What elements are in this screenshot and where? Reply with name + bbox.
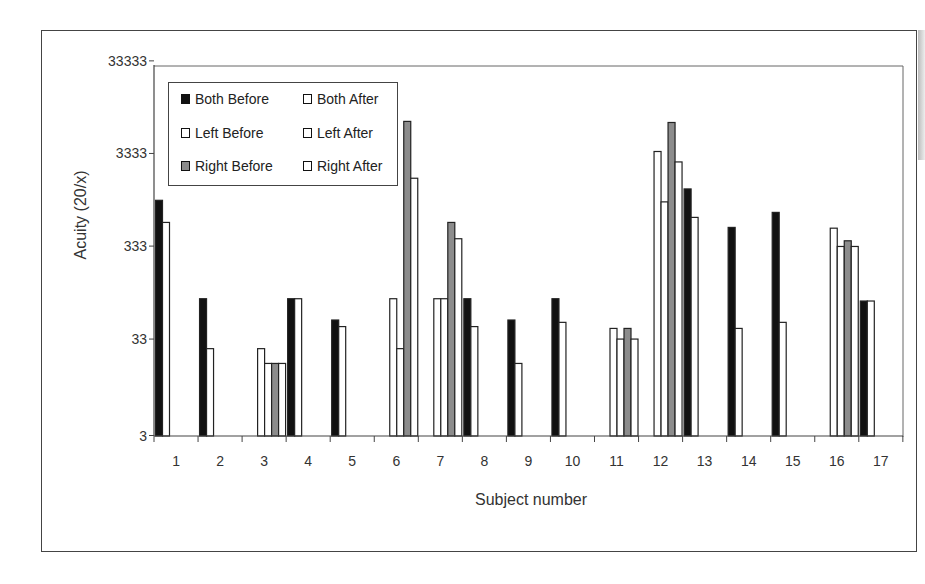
legend-item: Left After [303, 125, 373, 141]
bar-right-before [844, 241, 851, 436]
bar-both-after [559, 322, 566, 436]
x-tick-label: 15 [785, 453, 801, 469]
bar-right-after [411, 178, 418, 436]
legend-label: Right After [317, 158, 382, 174]
bar-both-before [772, 212, 779, 436]
bar-both-before [684, 189, 691, 436]
x-tick-label: 16 [829, 453, 845, 469]
legend-label: Left After [317, 125, 373, 141]
x-tick-label: 1 [172, 453, 180, 469]
bar-right-before [624, 328, 631, 436]
legend-swatch-icon [303, 128, 312, 138]
legend-item: Left Before [181, 125, 264, 141]
bar-both-before [288, 299, 295, 436]
bar-right-before [668, 122, 675, 436]
bar-left-before [258, 349, 265, 436]
bar-both-after [471, 327, 478, 436]
legend-label: Right Before [195, 158, 273, 174]
x-tick-label: 4 [304, 453, 312, 469]
bar-both-before [508, 320, 515, 436]
y-tick-label: 33333 [108, 53, 147, 69]
x-tick-label: 9 [525, 453, 533, 469]
bar-right-before [404, 121, 411, 436]
legend-label: Both After [317, 91, 378, 107]
bar-both-before [464, 299, 471, 436]
bar-both-before [728, 227, 735, 436]
bar-left-after [661, 202, 668, 436]
bar-left-after [441, 299, 448, 436]
x-ticks: 1234567891011121314151617 [154, 436, 903, 469]
legend-item: Both Before [181, 91, 269, 107]
x-tick-label: 17 [873, 453, 889, 469]
bar-left-after [265, 363, 272, 436]
bar-left-before [390, 299, 397, 436]
legend-item: Right Before [181, 158, 273, 174]
x-tick-label: 11 [609, 453, 624, 469]
y-tick-label: 333 [124, 238, 148, 254]
bar-left-before [610, 328, 617, 436]
x-axis-title: Subject number [475, 491, 588, 508]
legend-swatch-icon [303, 94, 312, 104]
bar-both-before [200, 299, 207, 436]
legend-item: Both After [303, 91, 378, 107]
bar-both-before [332, 320, 339, 436]
bar-left-before [434, 299, 441, 436]
bar-both-after [295, 299, 302, 436]
bar-both-before [860, 301, 867, 436]
bar-right-after [851, 246, 858, 436]
bar-chart: 333333333333333 123456789101112131415161… [0, 0, 925, 584]
bar-both-after [691, 217, 698, 436]
legend-label: Both Before [195, 91, 269, 107]
legend-swatch-icon [181, 94, 190, 104]
legend-label: Left Before [195, 125, 264, 141]
x-tick-label: 12 [653, 453, 669, 469]
legend-item: Right After [303, 158, 382, 174]
x-tick-label: 7 [436, 453, 444, 469]
x-tick-label: 3 [260, 453, 268, 469]
legend-swatch-icon [303, 161, 312, 171]
x-tick-label: 5 [348, 453, 356, 469]
bar-both-after [867, 301, 874, 436]
y-tick-label: 3 [139, 428, 147, 444]
bar-left-after [617, 339, 624, 436]
bar-both-after [207, 349, 214, 436]
x-tick-label: 2 [216, 453, 224, 469]
legend-swatch-icon [181, 128, 190, 138]
bar-both-after [779, 322, 786, 436]
bar-both-after [515, 363, 522, 436]
bar-both-after [339, 327, 346, 436]
bar-right-before [448, 222, 455, 436]
y-tick-label: 3333 [116, 145, 147, 161]
legend: Both BeforeBoth AfterLeft BeforeLeft Aft… [168, 82, 398, 186]
bar-right-after [631, 339, 638, 436]
bar-both-before [156, 200, 163, 436]
legend-swatch-icon [181, 161, 190, 171]
x-tick-label: 13 [697, 453, 713, 469]
bar-both-before [552, 299, 559, 436]
bar-right-after [279, 363, 286, 436]
bar-left-after [837, 246, 844, 436]
y-tick-label: 33 [131, 331, 147, 347]
x-tick-label: 10 [565, 453, 581, 469]
bar-right-after [675, 162, 682, 436]
bar-both-after [163, 222, 170, 436]
y-axis-title: Acuity (20/x) [72, 171, 89, 260]
x-tick-label: 14 [741, 453, 757, 469]
x-tick-label: 6 [392, 453, 400, 469]
bar-both-after [735, 328, 742, 436]
bar-right-before [272, 363, 279, 436]
bar-right-after [455, 239, 462, 436]
y-ticks: 333333333333333 [108, 53, 154, 444]
bar-left-before [830, 228, 837, 436]
x-tick-label: 8 [480, 453, 488, 469]
bar-left-before [654, 152, 661, 436]
bar-left-after [397, 349, 404, 436]
